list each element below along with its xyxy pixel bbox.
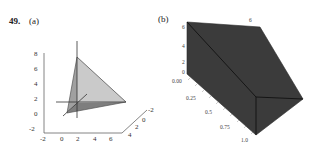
tick-b-x-000: 0.00	[172, 79, 182, 85]
tick-b-y-6: 6	[249, 18, 252, 24]
solid-wedge	[187, 22, 303, 135]
tick-b-x-075: 0.75	[220, 125, 230, 131]
tick-b-x-10: 1.0	[241, 138, 248, 144]
tick-b-x-05: 0.5	[205, 110, 212, 116]
plot-b	[0, 0, 313, 150]
tick-b-z-2: 2	[182, 60, 185, 66]
tick-b-z-6: 6	[182, 25, 185, 31]
tick-b-z-4: 4	[182, 44, 185, 50]
tick-b-x-025: 0.25	[186, 96, 196, 102]
tick-b-z-0: 0	[182, 70, 185, 76]
